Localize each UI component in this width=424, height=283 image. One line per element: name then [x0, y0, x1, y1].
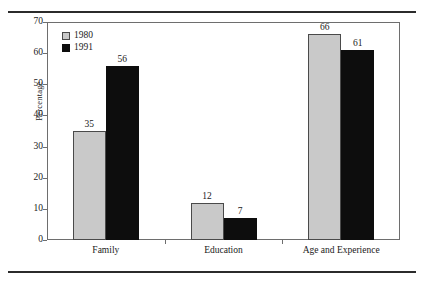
bar-value-label: 56: [118, 54, 128, 64]
legend-item-1980: 1980: [62, 30, 93, 41]
y-axis-tick-label: 40: [13, 111, 43, 121]
x-axis-category-label: Family: [92, 245, 119, 255]
bottom-horizontal-rule: [8, 271, 416, 273]
x-axis-tick-mark: [165, 240, 166, 244]
bar-age-and-experience-1980: [308, 34, 341, 240]
y-axis-tick-mark: [43, 84, 47, 85]
y-axis-tick-mark: [43, 178, 47, 179]
bar-value-label: 7: [238, 206, 243, 216]
y-axis-tick-mark: [43, 53, 47, 54]
bar-value-label: 12: [202, 191, 212, 201]
legend-label-1980: 1980: [74, 31, 93, 41]
y-axis-tick-label: 30: [13, 142, 43, 152]
bar-family-1991: [106, 66, 139, 240]
y-axis-tick-label: 50: [13, 80, 43, 90]
y-axis-tick-mark: [43, 240, 47, 241]
legend-swatch-1980-icon: [62, 32, 70, 40]
legend-item-1991: 1991: [62, 42, 93, 53]
y-axis-tick-labels: 010203040506070: [9, 22, 43, 240]
bar-education-1980: [191, 203, 224, 240]
y-axis-tick-mark: [43, 147, 47, 148]
bar-age-and-experience-1991: [341, 50, 374, 240]
legend: 1980 1991: [62, 30, 93, 54]
bar-value-label: 66: [320, 22, 330, 32]
y-axis-tick-mark: [43, 22, 47, 23]
legend-swatch-1991-icon: [62, 44, 70, 52]
y-axis-tick-label: 20: [13, 173, 43, 183]
x-axis-tick-mark: [282, 240, 283, 244]
bar-family-1980: [73, 131, 106, 240]
bar-education-1991: [224, 218, 257, 240]
bar-value-label: 61: [353, 38, 363, 48]
top-horizontal-rule: [8, 11, 416, 13]
legend-label-1991: 1991: [74, 43, 93, 53]
x-axis-category-label: Education: [204, 245, 243, 255]
bar-value-label: 35: [85, 119, 95, 129]
x-axis-category-label: Age and Experience: [303, 245, 380, 255]
y-axis-tick-label: 10: [13, 204, 43, 214]
y-axis-tick-mark: [43, 115, 47, 116]
y-axis-tick-label: 70: [13, 17, 43, 27]
y-axis-tick-label: 0: [13, 235, 43, 245]
plot-area: 1980 1991 35561276661: [47, 22, 400, 240]
y-axis-tick-mark: [43, 209, 47, 210]
bar-chart-figure: Percentage 010203040506070 1980 1991 355…: [0, 0, 424, 283]
y-axis-tick-label: 60: [13, 48, 43, 58]
